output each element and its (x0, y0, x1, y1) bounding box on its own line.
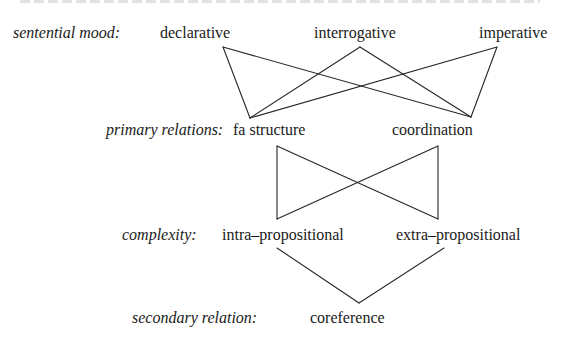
node-extra-propositional: extra–propositional (396, 226, 520, 244)
edge-imperative-fa-structure (250, 47, 497, 118)
edge-interrogative-fa-structure (250, 47, 360, 118)
node-interrogative: interrogative (314, 24, 396, 42)
edge-intra-coreference (277, 248, 359, 303)
node-fa-structure: fa structure (233, 121, 305, 139)
node-declarative: declarative (160, 24, 230, 42)
edge-declarative-coordination (223, 47, 471, 117)
edge-extra-coreference (359, 248, 444, 303)
node-intra-propositional: intra–propositional (222, 226, 344, 244)
category-label-primary-relations: primary relations: (106, 121, 223, 139)
diagram-edges (0, 0, 581, 348)
node-coreference: coreference (310, 309, 385, 327)
category-label-secondary-relation: secondary relation: (132, 309, 257, 327)
node-coordination: coordination (392, 121, 473, 139)
edge-declarative-fa-structure (223, 47, 250, 118)
node-imperative: imperative (479, 24, 547, 42)
category-label-complexity: complexity: (122, 226, 197, 244)
edge-imperative-coordination (471, 47, 497, 117)
category-label-sentential-mood: sentential mood: (13, 24, 120, 42)
